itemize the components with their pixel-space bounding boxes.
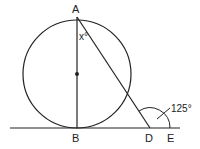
label-e: E bbox=[167, 132, 174, 144]
label-a: A bbox=[72, 3, 80, 15]
label-angle-125: 125° bbox=[171, 103, 192, 114]
geometry-diagram: A B D E x° 125° bbox=[0, 0, 200, 149]
center-point bbox=[75, 72, 79, 76]
label-angle-x: x° bbox=[79, 31, 88, 42]
label-b: B bbox=[72, 132, 79, 144]
label-d: D bbox=[145, 132, 153, 144]
